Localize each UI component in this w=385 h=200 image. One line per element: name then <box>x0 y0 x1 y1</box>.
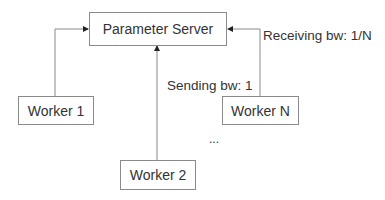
parameter-server-label: Parameter Server <box>103 21 213 37</box>
worker-2-node: Worker 2 <box>120 160 196 190</box>
worker-2-label: Worker 2 <box>130 167 187 183</box>
worker-n-node: Worker N <box>222 96 299 125</box>
parameter-server-node: Parameter Server <box>89 12 227 46</box>
worker-1-node: Worker 1 <box>18 96 94 125</box>
worker-1-label: Worker 1 <box>28 103 85 119</box>
sending-bandwidth-label: Sending bw: 1 <box>167 78 253 93</box>
worker-n-label: Worker N <box>231 103 290 119</box>
ellipsis-more-workers: ... <box>209 132 219 146</box>
edge-worker1-to-server <box>55 29 88 96</box>
receiving-bandwidth-label: Receiving bw: 1/N <box>263 28 372 43</box>
